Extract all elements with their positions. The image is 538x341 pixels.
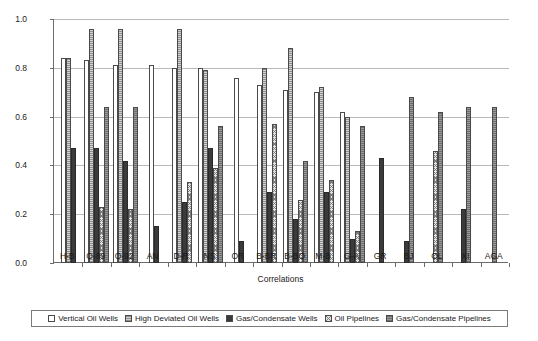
- bar-group: [424, 19, 452, 263]
- bar-group: [481, 19, 509, 263]
- bar: [379, 158, 384, 263]
- legend-label: Gas/Condensate Pipelines: [396, 314, 491, 323]
- x-axis-tick-label: M-B: [309, 252, 337, 261]
- bar: [272, 124, 277, 263]
- bar: [360, 126, 365, 263]
- x-axis-tick: [196, 263, 197, 267]
- bar-group: [82, 19, 110, 263]
- bar: [133, 107, 138, 263]
- bar-group: [196, 19, 224, 263]
- x-axis-tick: [310, 263, 311, 267]
- legend-label: Gas/Condensate Wells: [236, 314, 318, 323]
- bar: [438, 112, 443, 263]
- y-axis-tick-label: 0.4: [0, 161, 27, 170]
- x-axis-tick-label: O-92: [110, 252, 138, 261]
- legend-item: Oil Pipelines: [325, 314, 379, 323]
- x-axis-tick-label: XI: [451, 252, 479, 261]
- x-axis-tick: [82, 263, 83, 267]
- bar-chart: Score 0.00.20.40.60.81.0 H-BO-89O-92AND-…: [0, 0, 538, 341]
- y-axis-tick-label: 1.0: [0, 15, 27, 24]
- legend-swatch-icon: [386, 315, 393, 322]
- bar-group: [367, 19, 395, 263]
- bar-group: [253, 19, 281, 263]
- legend-swatch-icon: [325, 315, 332, 322]
- legend-item: High Deviated Oil Wells: [125, 314, 219, 323]
- x-axis-tick-label: B-BO: [281, 252, 309, 261]
- plot-area: [53, 19, 508, 263]
- bar-group: [282, 19, 310, 263]
- bar: [303, 161, 308, 263]
- x-axis-tick-label: OR: [224, 252, 252, 261]
- bar-group: [139, 19, 167, 263]
- bar: [104, 107, 109, 263]
- y-axis-tick-label: 0.8: [0, 64, 27, 73]
- x-axis-tick: [111, 263, 112, 267]
- x-axis-tick: [225, 263, 226, 267]
- x-axis-tick-label: AGA: [480, 252, 508, 261]
- bar: [71, 148, 76, 263]
- x-axis-tick: [424, 263, 425, 267]
- legend-label: High Deviated Oil Wells: [135, 314, 219, 323]
- legend-item: Vertical Oil Wells: [48, 314, 118, 323]
- x-axis-tick-label: NS: [195, 252, 223, 261]
- x-axis-tick: [395, 263, 396, 267]
- x-axis-tick: [139, 263, 140, 267]
- x-axis-tick: [338, 263, 339, 267]
- x-axis-tick-label: H-B: [53, 252, 81, 261]
- y-axis-tick-label: 0.2: [0, 210, 27, 219]
- x-axis-tick-label: B-BR: [252, 252, 280, 261]
- x-axis-tick: [253, 263, 254, 267]
- bar: [466, 107, 471, 263]
- bars-layer: [54, 19, 509, 263]
- bar: [218, 126, 223, 263]
- x-axis-tick-label: O-89: [81, 252, 109, 261]
- x-axis-tick: [452, 263, 453, 267]
- bar: [234, 78, 239, 263]
- y-axis-tick: [50, 263, 54, 264]
- y-axis-tick-label: 0.0: [0, 259, 27, 268]
- x-axis-tick-label: BJ: [394, 252, 422, 261]
- bar-group: [225, 19, 253, 263]
- legend-item: Gas/Condensate Wells: [226, 314, 318, 323]
- bar-group: [168, 19, 196, 263]
- x-axis-tick: [282, 263, 283, 267]
- legend-label: Oil Pipelines: [335, 314, 379, 323]
- legend-label: Vertical Oil Wells: [58, 314, 118, 323]
- x-axis-tick: [367, 263, 368, 267]
- bar: [492, 107, 497, 263]
- x-axis-tick: [168, 263, 169, 267]
- legend-item: Gas/Condensate Pipelines: [386, 314, 491, 323]
- bar-group: [452, 19, 480, 263]
- bar-group: [310, 19, 338, 263]
- x-axis-tick-label: G-A: [337, 252, 365, 261]
- x-axis-tick: [481, 263, 482, 267]
- bar: [409, 97, 414, 263]
- x-axis-tick-label: GR: [366, 252, 394, 261]
- x-axis-tick-label: OL: [423, 252, 451, 261]
- x-axis-tick-label: D-R: [167, 252, 195, 261]
- bar-group: [111, 19, 139, 263]
- legend-swatch-icon: [125, 315, 132, 322]
- legend-swatch-icon: [226, 315, 233, 322]
- y-axis-tick-label: 0.6: [0, 113, 27, 122]
- bar-group: [338, 19, 366, 263]
- chart-legend: Vertical Oil WellsHigh Deviated Oil Well…: [31, 310, 508, 327]
- bar-group: [54, 19, 82, 263]
- x-axis-tick: [509, 263, 510, 267]
- x-axis-tick-label: AN: [138, 252, 166, 261]
- bar-group: [395, 19, 423, 263]
- legend-swatch-icon: [48, 315, 55, 322]
- x-axis-title: Correlations: [53, 275, 508, 284]
